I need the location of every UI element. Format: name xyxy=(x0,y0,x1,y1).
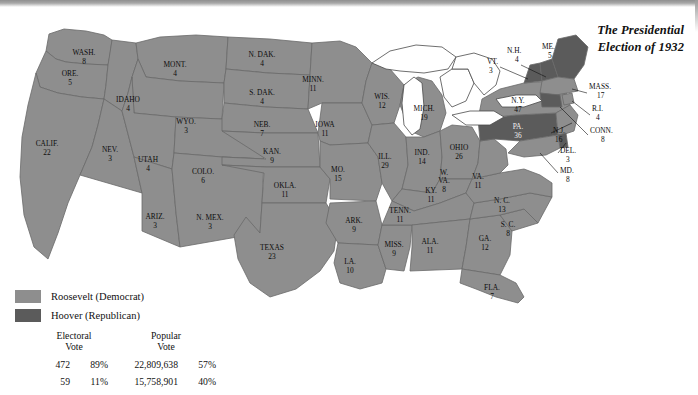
cell-popular-pct-hoover: 40% xyxy=(182,373,220,390)
label-minnesota: MINN. xyxy=(302,75,324,84)
label-wisconsin: WIS. xyxy=(374,92,390,101)
label-missouri: MO. xyxy=(331,165,345,174)
votes-georgia: 12 xyxy=(481,243,489,252)
vote-summary-table: Electoral Vote Popular Vote 472 89% 22,8… xyxy=(36,331,220,390)
votes-kentucky: 11 xyxy=(427,195,434,204)
label-michigan: MICH. xyxy=(413,104,434,113)
label-arkansas: ARK. xyxy=(345,216,363,225)
label-southdakota: S. DAK. xyxy=(249,88,275,97)
label-connecticut: CONN. xyxy=(590,126,613,135)
label-pennsylvania: PA. xyxy=(513,122,524,131)
vote-table-header-row: Electoral Vote Popular Vote xyxy=(36,331,220,356)
map-legend: Roosevelt (Democrat) Hoover (Republican) xyxy=(15,289,144,327)
votes-indiana: 14 xyxy=(418,157,426,166)
votes-oregon: 5 xyxy=(68,78,72,87)
label-vermont: VT. xyxy=(487,57,498,66)
label-california: CALIF. xyxy=(36,139,59,148)
votes-westvirginia: 8 xyxy=(442,185,446,194)
votes-washington: 8 xyxy=(82,57,86,66)
legend-label-republican: Hoover (Republican) xyxy=(51,310,140,321)
label-florida: FLA. xyxy=(484,283,500,292)
label-oregon: ORE. xyxy=(62,69,79,78)
label-mississippi: MISS. xyxy=(384,240,403,249)
votes-alabama: 11 xyxy=(426,246,433,255)
label-wyoming: WYO. xyxy=(176,117,196,126)
state-montana xyxy=(136,35,228,83)
votes-newjersey: 16 xyxy=(555,135,563,144)
votes-southcarolina: 8 xyxy=(506,229,510,238)
cell-popular-pct-roosevelt: 57% xyxy=(182,356,220,373)
label-newyork: N.Y. xyxy=(511,96,525,105)
table-row: 472 89% 22,809,638 57% xyxy=(36,356,220,373)
legend-item-republican: Hoover (Republican) xyxy=(15,308,144,323)
label-nevada: NEV. xyxy=(102,145,118,154)
votes-kansas: 9 xyxy=(270,156,274,165)
lake-superior xyxy=(372,45,456,73)
label-rhodeisland: R.I. xyxy=(592,104,603,113)
label-illinois: ILL. xyxy=(378,152,391,161)
legend-swatch-republican xyxy=(15,309,41,322)
label-maine: ME. xyxy=(542,42,555,51)
label-tennessee: TENN. xyxy=(389,206,411,215)
label-southcarolina: S. C. xyxy=(501,220,516,229)
label-arizona: ARIZ. xyxy=(145,212,164,221)
legend-label-democrat: Roosevelt (Democrat) xyxy=(51,291,144,302)
cell-electoral-hoover: 59 xyxy=(36,373,74,390)
label-texas: TEXAS xyxy=(260,243,284,252)
votes-newhampshire: 4 xyxy=(515,55,519,64)
state-alabama xyxy=(410,219,470,271)
header-popular-line-1: Popular xyxy=(151,330,181,341)
votes-missouri: 15 xyxy=(334,174,342,183)
votes-minnesota: 11 xyxy=(309,84,316,93)
cell-electoral-roosevelt: 472 xyxy=(36,356,74,373)
votes-tennessee: 11 xyxy=(396,215,403,224)
votes-oklahoma: 11 xyxy=(281,190,288,199)
votes-newyork: 47 xyxy=(514,105,522,114)
header-popular-line-2: Vote xyxy=(157,341,175,352)
votes-maryland: 8 xyxy=(566,175,570,184)
label-iowa: IOWA xyxy=(315,120,335,129)
cell-electoral-pct-roosevelt: 89% xyxy=(74,356,112,373)
label-idaho: IDAHO xyxy=(116,95,140,104)
label-virginia: VA. xyxy=(472,172,484,181)
label-nebraska: NEB. xyxy=(254,120,271,129)
table-row: 59 11% 15,758,901 40% xyxy=(36,373,220,390)
state-massachusetts xyxy=(540,77,578,95)
label-northcarolina: N. C. xyxy=(494,196,510,205)
label-colorado: COLO. xyxy=(192,167,214,176)
lake-huron xyxy=(440,69,474,107)
label-alabama: ALA. xyxy=(421,237,438,246)
votes-maine: 5 xyxy=(548,51,552,60)
cell-popular-roosevelt: 22,809,638 xyxy=(112,356,182,373)
votes-ohio: 26 xyxy=(455,152,463,161)
label-maryland: MD. xyxy=(560,166,574,175)
votes-montana: 4 xyxy=(173,69,177,78)
label-kentucky: KY. xyxy=(425,186,437,195)
state-louisiana xyxy=(334,243,386,289)
state-connecticut xyxy=(540,93,562,107)
header-popular-vote: Popular Vote xyxy=(112,331,220,356)
top-border-band xyxy=(0,0,698,7)
state-maine xyxy=(552,35,588,79)
label-massachusetts: MASS. xyxy=(589,82,611,91)
legend-item-democrat: Roosevelt (Democrat) xyxy=(15,289,144,304)
votes-colorado: 6 xyxy=(201,176,205,185)
label-westvirginia-2: VA. xyxy=(438,176,450,185)
leader-maryland xyxy=(540,153,558,173)
map-svg: .dem{fill:#8e8e8e;stroke:#6a6a6a;stroke-… xyxy=(0,7,698,307)
label-washington: WASH. xyxy=(73,48,96,57)
label-newmexico: N. MEX. xyxy=(196,213,223,222)
votes-massachusetts: 17 xyxy=(597,91,605,100)
header-electoral-vote: Electoral Vote xyxy=(36,331,112,356)
votes-rhodeisland: 4 xyxy=(596,113,600,122)
votes-louisiana: 10 xyxy=(346,266,354,275)
votes-nebraska: 7 xyxy=(260,129,264,138)
votes-northdakota: 4 xyxy=(260,59,264,68)
label-kansas: KAN. xyxy=(263,147,281,156)
label-georgia: GA. xyxy=(479,234,492,243)
cell-electoral-pct-hoover: 11% xyxy=(74,373,112,390)
votes-iowa: 11 xyxy=(321,129,328,138)
label-utah: UTAH xyxy=(138,155,159,164)
votes-florida: 7 xyxy=(490,292,494,301)
state-rhodeisland xyxy=(562,93,574,105)
